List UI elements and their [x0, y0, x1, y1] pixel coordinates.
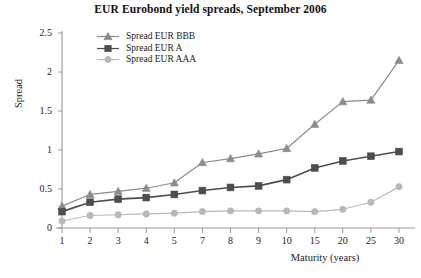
legend-item: Spread EUR BBB [96, 31, 196, 43]
legend-label: Spread EUR AAA [126, 54, 196, 66]
triangle-marker-icon [96, 31, 120, 42]
y-axis-ticks [58, 33, 62, 228]
circle-marker-icon [96, 54, 120, 65]
x-axis-ticks [62, 228, 399, 233]
legend-item: Spread EUR A [96, 43, 196, 55]
plot-area [0, 0, 421, 278]
legend-item: Spread EUR AAA [96, 54, 196, 66]
legend-label: Spread EUR A [126, 43, 182, 55]
chart-figure: EUR Eurobond yield spreads, September 20… [0, 0, 421, 278]
legend-label: Spread EUR BBB [126, 31, 195, 43]
square-marker-icon [96, 43, 120, 54]
chart-legend: Spread EUR BBBSpread EUR ASpread EUR AAA [96, 31, 196, 66]
